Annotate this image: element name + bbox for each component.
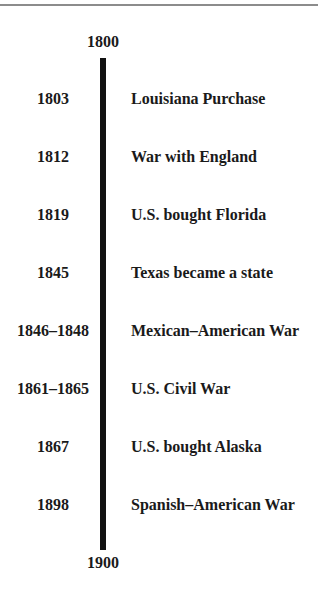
timeline-row: 1812 War with England	[0, 147, 318, 167]
event-label: U.S. bought Alaska	[131, 437, 262, 457]
event-label: Spanish–American War	[131, 495, 295, 515]
event-label: Mexican–American War	[131, 321, 299, 341]
event-label: U.S. Civil War	[131, 379, 230, 399]
timeline-row: 1845 Texas became a state	[0, 263, 318, 283]
timeline-end-label: 1900	[73, 554, 133, 572]
event-date: 1819	[0, 205, 106, 225]
event-label: War with England	[131, 147, 257, 167]
event-date: 1803	[0, 89, 106, 109]
event-label: U.S. bought Florida	[131, 205, 266, 225]
timeline-axis-bar	[100, 58, 106, 550]
timeline-row: 1819 U.S. bought Florida	[0, 205, 318, 225]
event-date: 1812	[0, 147, 106, 167]
timeline-row: 1898 Spanish–American War	[0, 495, 318, 515]
event-date: 1898	[0, 495, 106, 515]
event-label: Louisiana Purchase	[131, 89, 265, 109]
event-label: Texas became a state	[131, 263, 273, 283]
event-date: 1861–1865	[0, 379, 106, 399]
event-date: 1846–1848	[0, 321, 106, 341]
timeline-start-label: 1800	[73, 33, 133, 51]
timeline-row: 1861–1865 U.S. Civil War	[0, 379, 318, 399]
top-divider	[0, 4, 318, 6]
event-date: 1845	[0, 263, 106, 283]
event-date: 1867	[0, 437, 106, 457]
timeline-row: 1846–1848 Mexican–American War	[0, 321, 318, 341]
timeline-row: 1867 U.S. bought Alaska	[0, 437, 318, 457]
timeline-row: 1803 Louisiana Purchase	[0, 89, 318, 109]
